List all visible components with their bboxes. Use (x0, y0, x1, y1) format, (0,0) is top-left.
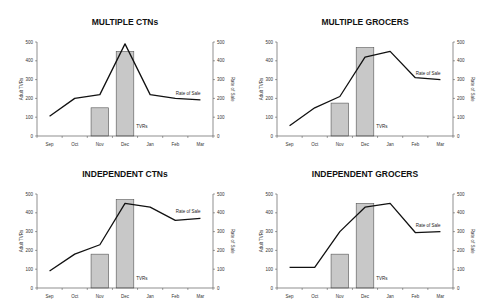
y-tick-label-left: 200 (25, 248, 33, 253)
y-tick-label-right: 500 (217, 192, 225, 197)
x-tick-label: Mar (197, 142, 205, 147)
y-tick-label-left: 100 (25, 115, 33, 120)
y-axis-label-left: Adult TVRs (259, 229, 264, 252)
y-tick-label-right: 400 (457, 58, 465, 63)
y-tick-label-left: 0 (270, 134, 273, 139)
y-tick-label-left: 200 (265, 248, 273, 253)
y-tick-label-right: 0 (217, 134, 220, 139)
x-tick-label: Mar (197, 294, 205, 299)
x-tick-label: Sep (286, 294, 295, 299)
x-tick-label: Jan (387, 142, 395, 147)
x-tick-label: Dec (361, 294, 370, 299)
annotation-tvrs: TVRs (136, 124, 148, 129)
annotation-rate-of-sale: Rate of Sale (176, 209, 201, 214)
chart-independent-grocers: INDEPENDENT GROCERS001001002002003003004… (240, 152, 479, 304)
chart-multiple-grocers: MULTIPLE GROCERS001001002002003003004004… (240, 0, 479, 152)
annotation-rate-of-sale: Rate of Sale (416, 223, 441, 228)
y-tick-label-right: 300 (217, 229, 225, 234)
chart-title: INDEPENDENT GROCERS (312, 169, 419, 179)
y-axis-label-left: Adult TVRs (259, 77, 264, 100)
x-tick-label: Nov (96, 142, 105, 147)
y-tick-label-right: 400 (217, 210, 225, 215)
bar-tvrs (356, 203, 374, 288)
bar-tvrs (356, 48, 374, 136)
y-tick-label-left: 400 (25, 58, 33, 63)
y-tick-label-left: 400 (25, 210, 33, 215)
y-axis-label-left: Adult TVRs (19, 229, 24, 252)
y-tick-label-left: 500 (25, 40, 33, 45)
x-tick-label: Sep (46, 294, 55, 299)
x-tick-label: Feb (171, 294, 179, 299)
y-tick-label-right: 400 (217, 58, 225, 63)
y-tick-label-left: 200 (265, 96, 273, 101)
y-tick-label-left: 200 (25, 96, 33, 101)
x-tick-label: Oct (311, 294, 319, 299)
y-tick-label-right: 200 (457, 248, 465, 253)
bar-tvrs (116, 51, 134, 136)
annotation-rate-of-sale: Rate of Sale (416, 71, 441, 76)
x-tick-label: Oct (71, 294, 79, 299)
y-tick-label-left: 0 (30, 286, 33, 291)
chart-title: MULTIPLE GROCERS (321, 17, 409, 27)
bar-tvrs (91, 108, 109, 136)
y-tick-label-left: 300 (25, 77, 33, 82)
y-tick-label-left: 400 (265, 58, 273, 63)
y-axis-label-right: Rate of Sale (470, 229, 475, 254)
y-tick-label-right: 400 (457, 210, 465, 215)
y-axis-label-left: Adult TVRs (19, 77, 24, 100)
y-tick-label-right: 100 (217, 115, 225, 120)
x-tick-label: Dec (121, 142, 130, 147)
y-tick-label-right: 200 (457, 96, 465, 101)
y-tick-label-left: 500 (25, 192, 33, 197)
annotation-tvrs: TVRs (136, 276, 148, 281)
y-tick-label-right: 100 (457, 267, 465, 272)
y-tick-label-left: 300 (265, 229, 273, 234)
bar-tvrs (331, 254, 349, 288)
x-tick-label: Nov (96, 294, 105, 299)
x-tick-label: Feb (411, 142, 419, 147)
x-tick-label: Jan (147, 294, 155, 299)
y-axis-label-right: Rate of Sale (230, 77, 235, 102)
x-tick-label: Oct (311, 142, 319, 147)
y-tick-label-left: 0 (270, 286, 273, 291)
y-tick-label-right: 500 (457, 192, 465, 197)
x-tick-label: Oct (71, 142, 79, 147)
x-tick-label: Nov (336, 142, 345, 147)
chart-multiple-ctns: MULTIPLE CTNs001001002002003003004004005… (0, 0, 240, 152)
x-tick-label: Sep (46, 142, 55, 147)
y-tick-label-right: 500 (457, 40, 465, 45)
chart-title: INDEPENDENT CTNs (82, 169, 168, 179)
x-tick-label: Feb (171, 142, 179, 147)
chart-title: MULTIPLE CTNs (92, 17, 159, 27)
bar-tvrs (331, 103, 349, 136)
y-axis-label-right: Rate of Sale (230, 229, 235, 254)
y-tick-label-right: 500 (217, 40, 225, 45)
y-tick-label-left: 100 (265, 115, 273, 120)
x-tick-label: Feb (411, 294, 419, 299)
x-tick-label: Jan (147, 142, 155, 147)
y-axis-label-right: Rate of Sale (470, 77, 475, 102)
x-tick-label: Jan (387, 294, 395, 299)
y-tick-label-left: 500 (265, 40, 273, 45)
y-tick-label-right: 0 (457, 134, 460, 139)
chart-grid: MULTIPLE CTNs001001002002003003004004005… (0, 0, 479, 305)
y-tick-label-right: 300 (457, 229, 465, 234)
y-tick-label-right: 200 (217, 96, 225, 101)
x-tick-label: Sep (286, 142, 295, 147)
y-tick-label-right: 100 (217, 267, 225, 272)
y-tick-label-left: 300 (25, 229, 33, 234)
annotation-tvrs: TVRs (376, 276, 388, 281)
x-tick-label: Mar (437, 142, 445, 147)
y-tick-label-right: 0 (217, 286, 220, 291)
y-tick-label-left: 100 (265, 267, 273, 272)
y-tick-label-right: 300 (217, 77, 225, 82)
annotation-rate-of-sale: Rate of Sale (176, 91, 201, 96)
annotation-tvrs: TVRs (376, 124, 388, 129)
x-tick-label: Nov (336, 294, 345, 299)
y-tick-label-left: 300 (265, 77, 273, 82)
y-tick-label-right: 200 (217, 248, 225, 253)
y-tick-label-right: 0 (457, 286, 460, 291)
x-tick-label: Dec (361, 142, 370, 147)
x-tick-label: Mar (437, 294, 445, 299)
y-tick-label-left: 0 (30, 134, 33, 139)
